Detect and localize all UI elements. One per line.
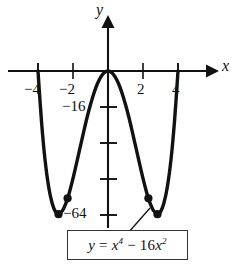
y-tick-label--16: −16 — [62, 99, 85, 114]
x-axis-label: x — [222, 58, 229, 74]
equation-coefficient: 16 — [140, 237, 155, 253]
point-local-minimum-left — [54, 210, 62, 218]
point-local-minimum-right — [153, 210, 161, 218]
equation-annotation-box: y = x4 − 16x2 — [67, 230, 188, 260]
x-tick-label--4: −4 — [24, 82, 40, 97]
x-tick-label-2: 2 — [137, 82, 145, 97]
equation-term1-base: x — [112, 237, 119, 253]
equation-minus-sign: − — [127, 237, 136, 253]
equation-term2-exponent: 2 — [162, 236, 167, 246]
y-axis-label: y — [96, 2, 103, 18]
equation-text: y = x4 − 16x2 — [88, 236, 167, 254]
graph-figure: y x −4 −2 2 4 −16 −64 y = x4 − 16x2 — [0, 0, 235, 274]
point-inflection-left — [63, 194, 71, 202]
x-axis-arrow — [206, 65, 219, 78]
x-tick-label-4: 4 — [172, 82, 180, 97]
x-tick-label--2: −2 — [59, 82, 75, 97]
equation-equals: = — [99, 237, 108, 253]
point-inflection-right — [144, 194, 152, 202]
y-axis-arrow — [102, 15, 115, 28]
y-tick-label--64: −64 — [63, 206, 86, 221]
